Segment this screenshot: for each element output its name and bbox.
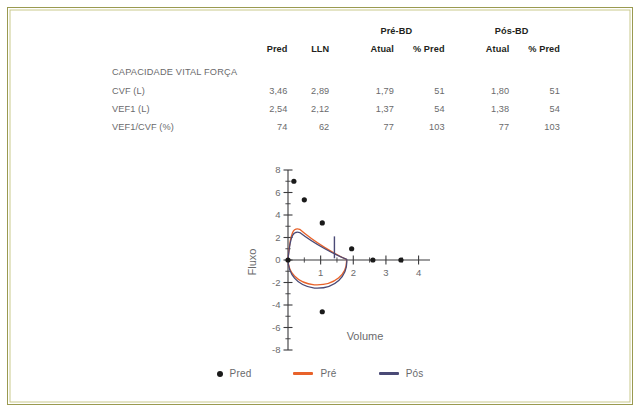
svg-text:4: 4 xyxy=(416,267,421,278)
legend-label-pre: Pré xyxy=(320,368,336,379)
column-header-spacer2 xyxy=(445,40,464,59)
cell-vef1cvf-pred: 74 xyxy=(247,118,288,136)
table-row: CVF (L) 3,46 2,89 1,79 51 1,80 51 xyxy=(112,82,560,100)
cell-vef1-pos-pct: 54 xyxy=(509,100,560,118)
group-header-pre-bd: Pré-BD xyxy=(348,22,445,40)
flow-volume-chart: -8-6-4-2024681234 Fluxo Volume xyxy=(240,160,440,360)
column-header-spacer xyxy=(329,40,348,59)
cell-vef1-pos-atual: 1,38 xyxy=(463,100,509,118)
svg-text:2: 2 xyxy=(275,232,280,243)
svg-text:1: 1 xyxy=(318,267,323,278)
cell-vef1cvf-lln: 62 xyxy=(288,118,330,136)
svg-text:-8: -8 xyxy=(272,344,280,355)
column-header-pre-atual: Atual xyxy=(348,40,394,59)
chart-legend: Pred Pré Pós xyxy=(0,368,640,379)
svg-text:-6: -6 xyxy=(272,322,280,333)
cell-cvf-pred: 3,46 xyxy=(247,82,288,100)
column-header-pre-pct-pred: % Pred xyxy=(394,40,445,59)
chart-loops xyxy=(288,229,347,288)
chart-pred-points xyxy=(285,179,403,315)
pred-dot-icon xyxy=(217,371,223,377)
row-label-vef1: VEF1 (L) xyxy=(112,100,247,118)
section-label-capacidade-vital-forcada: CAPACIDADE VITAL FORÇA xyxy=(112,59,560,82)
column-header-pos-pct-pred: % Pred xyxy=(509,40,560,59)
cell-vef1-pre-pct: 54 xyxy=(394,100,445,118)
cell-cvf-lln: 2,89 xyxy=(288,82,330,100)
group-header-blank-spacer xyxy=(329,22,348,40)
chart-axes xyxy=(284,170,431,350)
cell-cvf-pos-pct: 51 xyxy=(509,82,560,100)
group-header-blank-pred xyxy=(247,22,288,40)
table-column-header-row: Pred LLN Atual % Pred Atual % Pred xyxy=(112,40,560,59)
cell-cvf-pos-atual: 1,80 xyxy=(463,82,509,100)
flow-volume-svg: -8-6-4-2024681234 Fluxo Volume xyxy=(240,160,440,360)
cell-spacer2 xyxy=(445,118,464,136)
x-axis-title: Volume xyxy=(347,330,384,342)
row-label-vef1-cvf: VEF1/CVF (%) xyxy=(112,118,247,136)
column-header-pred: Pred xyxy=(247,40,288,59)
group-header-blank xyxy=(112,22,247,40)
cell-vef1-lln: 2,12 xyxy=(288,100,330,118)
legend-label-pos: Pós xyxy=(406,368,424,379)
svg-text:-2: -2 xyxy=(272,277,280,288)
group-header-blank-spacer2 xyxy=(445,22,464,40)
svg-text:4: 4 xyxy=(275,209,280,220)
y-axis-title: Fluxo xyxy=(246,249,258,276)
group-header-blank-lln xyxy=(288,22,330,40)
row-label-cvf: CVF (L) xyxy=(112,82,247,100)
svg-text:8: 8 xyxy=(275,164,280,175)
cell-spacer xyxy=(329,100,348,118)
column-header-lln: LLN xyxy=(288,40,330,59)
cell-vef1cvf-pos-pct: 103 xyxy=(509,118,560,136)
legend-label-pred: Pred xyxy=(230,368,252,379)
cell-vef1cvf-pre-atual: 77 xyxy=(348,118,394,136)
cell-vef1-pred: 2,54 xyxy=(247,100,288,118)
svg-text:6: 6 xyxy=(275,187,280,198)
spirometry-table: Pré-BD Pós-BD Pred LLN Atual % Pred Atua… xyxy=(112,22,560,136)
cell-vef1-pre-atual: 1,37 xyxy=(348,100,394,118)
group-header-pos-bd: Pós-BD xyxy=(463,22,560,40)
table-section-row: CAPACIDADE VITAL FORÇA xyxy=(112,59,560,82)
svg-text:-4: -4 xyxy=(272,299,280,310)
cell-spacer2 xyxy=(445,100,464,118)
column-header-pos-atual: Atual xyxy=(463,40,509,59)
column-header-blank xyxy=(112,40,247,59)
legend-item-pre: Pré xyxy=(293,368,336,379)
table-group-header-row: Pré-BD Pós-BD xyxy=(112,22,560,40)
svg-text:0: 0 xyxy=(275,254,280,265)
cell-spacer xyxy=(329,118,348,136)
pre-line-icon xyxy=(293,372,313,375)
pos-line-icon xyxy=(379,372,399,375)
cell-cvf-pre-atual: 1,79 xyxy=(348,82,394,100)
cell-cvf-pre-pct: 51 xyxy=(394,82,445,100)
cell-spacer2 xyxy=(445,82,464,100)
cell-vef1cvf-pre-pct: 103 xyxy=(394,118,445,136)
cell-vef1cvf-pos-atual: 77 xyxy=(463,118,509,136)
table-row: VEF1 (L) 2,54 2,12 1,37 54 1,38 54 xyxy=(112,100,560,118)
cell-spacer xyxy=(329,82,348,100)
svg-text:2: 2 xyxy=(351,267,356,278)
legend-item-pos: Pós xyxy=(379,368,424,379)
legend-item-pred: Pred xyxy=(217,368,252,379)
table-row: VEF1/CVF (%) 74 62 77 103 77 103 xyxy=(112,118,560,136)
svg-text:3: 3 xyxy=(383,267,388,278)
